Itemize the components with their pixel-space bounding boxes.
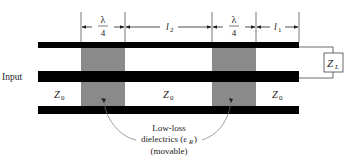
svg-text:2: 2 [170, 26, 174, 34]
top-conductor [38, 42, 299, 48]
svg-text:0: 0 [279, 94, 283, 102]
annotation-line-2: dielectrics (ε R ) [141, 134, 197, 145]
svg-text:L: L [334, 63, 339, 71]
annotation-line-1: Low-loss [152, 123, 186, 133]
input-label: Input [2, 72, 22, 82]
z0-label-left: Z 0 [54, 89, 65, 102]
dim-label-quarter-wave-1: λ 4 [98, 14, 108, 38]
svg-text:Z: Z [327, 57, 334, 69]
dim-label-quarter-wave-2: λ 4 [229, 14, 239, 38]
svg-text:Z: Z [272, 89, 278, 100]
svg-text:λ: λ [101, 14, 106, 25]
load-impedance[interactable]: Z L [299, 47, 343, 78]
svg-text:l: l [166, 21, 169, 32]
svg-text:Z: Z [163, 89, 169, 100]
dim-label-l1: l 1 [274, 21, 282, 34]
svg-text:λ: λ [232, 14, 237, 25]
svg-text:0: 0 [61, 94, 65, 102]
dim-label-l2: l 2 [166, 21, 174, 34]
svg-text:0: 0 [170, 94, 174, 102]
svg-text:Z: Z [54, 89, 60, 100]
svg-text:l: l [274, 21, 277, 32]
bottom-conductor [38, 106, 299, 114]
svg-text:4: 4 [232, 28, 237, 38]
annotation-line-3: (movable) [151, 146, 188, 156]
svg-text:4: 4 [101, 28, 106, 38]
z0-label-middle: Z 0 [163, 89, 174, 102]
center-conductor [38, 71, 299, 82]
svg-text:dielectrics (ε: dielectrics (ε [141, 134, 187, 144]
svg-text:1: 1 [278, 26, 282, 34]
z0-label-right: Z 0 [272, 89, 283, 102]
svg-text:R: R [188, 138, 193, 145]
svg-text:): ) [194, 134, 197, 144]
